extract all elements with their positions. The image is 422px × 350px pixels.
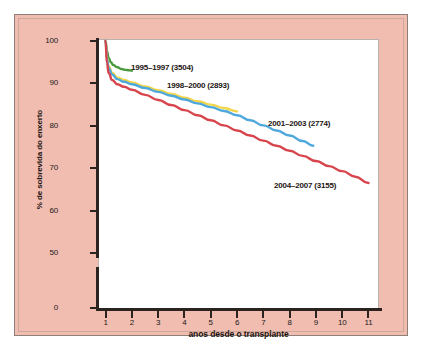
x-tick-label-1: 1 xyxy=(98,318,114,327)
y-tick-label-0: 0 xyxy=(28,303,58,312)
x-tick-7 xyxy=(262,311,264,318)
y-tick-0 xyxy=(90,307,97,309)
series-label-2001-2003: 2001–2003 (2774) xyxy=(268,119,330,128)
x-tick-10 xyxy=(341,311,343,318)
x-tick-8 xyxy=(289,311,291,318)
x-tick-label-7: 7 xyxy=(255,318,271,327)
x-tick-label-6: 6 xyxy=(229,318,245,327)
x-tick-label-11: 11 xyxy=(360,318,376,327)
x-tick-label-9: 9 xyxy=(308,318,324,327)
x-tick-3 xyxy=(157,311,159,318)
series-label-1998-2000: 1998–2000 (2893) xyxy=(167,81,229,90)
series-curve-2 xyxy=(106,41,314,146)
y-tick-label-90: 90 xyxy=(28,78,58,87)
y-tick-90 xyxy=(90,82,97,84)
x-tick-2 xyxy=(131,311,133,318)
y-tick-label-50: 50 xyxy=(28,248,58,257)
y-tick-80 xyxy=(90,125,97,127)
y-axis-lower-segment xyxy=(96,267,99,311)
x-tick-5 xyxy=(210,311,212,318)
series-label-2004-2007: 2004–2007 (3155) xyxy=(274,181,336,190)
x-tick-11 xyxy=(367,311,369,318)
x-tick-4 xyxy=(183,311,185,318)
figure-panel: 05060708090100 1234567891011 % de sobrev… xyxy=(14,14,408,336)
x-tick-1 xyxy=(105,311,107,318)
x-tick-label-4: 4 xyxy=(176,318,192,327)
x-tick-label-10: 10 xyxy=(334,318,350,327)
x-tick-6 xyxy=(236,311,238,318)
series-curve-1 xyxy=(106,41,237,111)
curve-layer xyxy=(15,15,409,337)
x-tick-label-8: 8 xyxy=(282,318,298,327)
y-tick-label-100: 100 xyxy=(28,36,58,45)
y-axis-title: % de sobrevida do enxerto xyxy=(35,100,44,220)
y-tick-50 xyxy=(90,252,97,254)
x-tick-9 xyxy=(315,311,317,318)
x-tick-label-5: 5 xyxy=(203,318,219,327)
y-tick-60 xyxy=(90,210,97,212)
x-axis-title: anos desde o transplante xyxy=(98,329,379,339)
x-axis-line xyxy=(96,308,382,311)
x-tick-label-3: 3 xyxy=(150,318,166,327)
y-axis-upper-segment xyxy=(96,38,99,258)
y-tick-100 xyxy=(90,40,97,42)
series-label-1995-1997: 1995–1997 (3504) xyxy=(131,63,193,72)
x-tick-label-2: 2 xyxy=(124,318,140,327)
y-tick-70 xyxy=(90,167,97,169)
